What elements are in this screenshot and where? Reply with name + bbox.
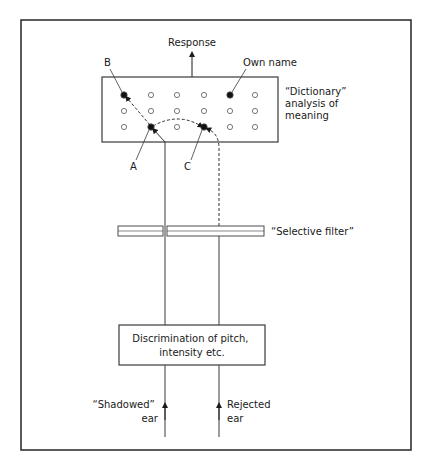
empty-node [252, 124, 257, 129]
empty-node [174, 108, 179, 113]
empty-node [201, 108, 206, 113]
filled-node [121, 92, 127, 98]
selective-filter [118, 226, 264, 236]
dictionary-label: “Dictionary” analysis of meaning [285, 86, 350, 121]
point-b-label: B [104, 57, 111, 68]
empty-node [227, 108, 232, 113]
filled-node [201, 124, 207, 130]
point-c-label: C [184, 161, 191, 172]
own-name-label: Own name [243, 57, 297, 68]
shadowed-ear-label: “Shadowed” ear [92, 399, 158, 424]
empty-node [252, 92, 257, 97]
empty-node [121, 124, 126, 129]
empty-node [121, 108, 126, 113]
discrimination-box [119, 325, 265, 365]
point-b-leader [110, 69, 122, 92]
empty-node [148, 108, 153, 113]
empty-node [174, 92, 179, 97]
path-a-to-b [127, 98, 150, 125]
dictionary-box [102, 77, 278, 142]
empty-node [174, 124, 179, 129]
point-a-leader [136, 130, 149, 160]
shadowed-to-a-arrow [154, 130, 165, 142]
rejected-ear-label: Rejected ear [227, 399, 274, 424]
attention-model-diagram: Response “Dictionary” analysis of meanin… [0, 0, 426, 464]
selective-filter-label: “Selective filter” [271, 226, 354, 237]
own-name-leader [232, 69, 246, 92]
filled-node [148, 124, 154, 130]
dictionary-grid [121, 92, 258, 130]
rejected-channel-dashed [208, 129, 219, 226]
point-a-label: A [130, 161, 137, 172]
empty-node [227, 124, 232, 129]
empty-node [148, 92, 153, 97]
filled-node [227, 92, 233, 98]
empty-node [201, 92, 206, 97]
point-c-leader [191, 130, 202, 160]
response-label: Response [168, 37, 216, 48]
empty-node [252, 108, 257, 113]
